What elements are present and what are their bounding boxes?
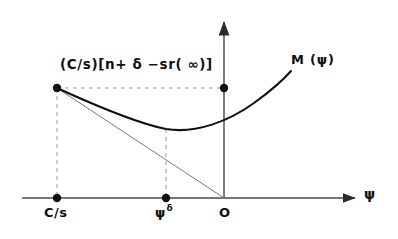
marker-axis-value-point <box>220 84 228 92</box>
marker-tick-cs <box>53 194 61 202</box>
value-expression-label: (C/s)[n+ δ −sr( ∞)] <box>60 58 213 72</box>
marker-left-endpoint <box>53 84 61 92</box>
chord-line <box>57 88 224 198</box>
origin-label: O <box>219 206 230 219</box>
plot-canvas <box>0 0 398 239</box>
curve-m-psi <box>57 71 291 130</box>
delta-superscript: δ <box>167 203 173 213</box>
x-tick-label-cs: C/s <box>44 206 68 219</box>
curve-name-label: M (ψ) <box>291 53 335 66</box>
psi-base: ψ <box>155 205 166 220</box>
marker-tick-psi-delta <box>162 194 170 202</box>
figure-container: (C/s)[n+ δ −sr( ∞)] M (ψ) ψ C/s ψδ O <box>0 0 398 239</box>
x-tick-label-psi-delta: ψδ <box>155 205 172 219</box>
x-axis-label: ψ <box>364 187 375 201</box>
